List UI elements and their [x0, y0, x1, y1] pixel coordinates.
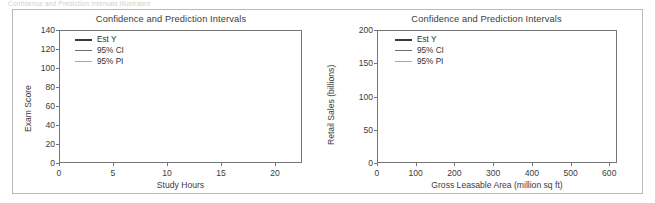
x-axis-label-right: Gross Leasable Area (million sq ft) — [377, 180, 617, 190]
legend-label-pi: 95% PI — [417, 56, 443, 67]
y-tick-label: 0 — [33, 158, 55, 168]
legend-line-icon-ci — [75, 50, 92, 51]
y-axis-label-right: Retail Sales (billions) — [326, 65, 336, 145]
chart-title-left: Confidence and Prediction Intervals — [13, 14, 329, 24]
x-tick-mark — [221, 163, 222, 166]
faint-caption: Confidence and Prediction Intervals Illu… — [8, 0, 428, 8]
x-tick-mark — [59, 163, 60, 166]
y-tick-mark — [56, 49, 59, 50]
y-tick-label: 20 — [33, 139, 55, 149]
y-tick-mark — [56, 30, 59, 31]
y-tick-label: 140 — [33, 25, 55, 35]
legend-item-est-y: Est Y — [75, 34, 124, 45]
legend-item-est-y: Est Y — [395, 34, 444, 45]
x-tick-label: 500 — [563, 168, 577, 178]
y-tick-mark — [374, 97, 377, 98]
x-tick-mark — [167, 163, 168, 166]
x-tick-mark — [532, 163, 533, 166]
y-tick-label: 120 — [33, 44, 55, 54]
x-tick-mark — [275, 163, 276, 166]
x-tick-mark — [416, 163, 417, 166]
legend-right: Est Y 95% CI 95% PI — [395, 34, 444, 67]
x-tick-label: 5 — [111, 168, 116, 178]
legend-label-ci: 95% CI — [417, 45, 444, 56]
x-tick-mark — [454, 163, 455, 166]
y-tick-label: 150 — [351, 58, 373, 68]
chart-title-right: Confidence and Prediction Intervals — [329, 14, 644, 24]
y-tick-mark — [374, 30, 377, 31]
legend-line-icon-est-y — [75, 39, 92, 41]
y-tick-label: 60 — [33, 101, 55, 111]
y-tick-mark — [56, 68, 59, 69]
x-tick-label: 400 — [525, 168, 539, 178]
legend-item-ci: 95% CI — [395, 45, 444, 56]
legend-item-ci: 95% CI — [75, 45, 124, 56]
legend-item-pi: 95% PI — [75, 56, 124, 67]
x-tick-mark — [493, 163, 494, 166]
y-tick-label: 100 — [351, 92, 373, 102]
legend-label-pi: 95% PI — [97, 56, 123, 67]
x-tick-mark — [377, 163, 378, 166]
figure-sheet: Confidence and Prediction Intervals Illu… — [0, 0, 655, 203]
y-tick-mark — [56, 144, 59, 145]
x-tick-label: 0 — [375, 168, 380, 178]
y-tick-label: 100 — [33, 63, 55, 73]
x-tick-mark — [609, 163, 610, 166]
chart-panel-retail-sales: Confidence and Prediction Intervals Gros… — [329, 10, 644, 195]
y-tick-label: 40 — [33, 120, 55, 130]
chart-panel-exam-score: Confidence and Prediction Intervals Exam… — [13, 10, 329, 195]
y-tick-mark — [56, 87, 59, 88]
y-tick-mark — [374, 130, 377, 131]
x-tick-label: 10 — [162, 168, 172, 178]
legend-line-icon-est-y — [395, 39, 412, 41]
y-tick-label: 200 — [351, 25, 373, 35]
legend-label-ci: 95% CI — [97, 45, 124, 56]
x-tick-label: 15 — [216, 168, 226, 178]
legend-left: Est Y 95% CI 95% PI — [75, 34, 124, 67]
legend-line-icon-ci — [395, 50, 412, 51]
legend-item-pi: 95% PI — [395, 56, 444, 67]
y-tick-mark — [56, 125, 59, 126]
legend-label-est-y: Est Y — [417, 34, 436, 45]
y-tick-mark — [374, 63, 377, 64]
x-tick-label: 20 — [270, 168, 280, 178]
x-tick-label: 100 — [409, 168, 423, 178]
legend-label-est-y: Est Y — [97, 34, 116, 45]
legend-line-icon-pi — [395, 61, 412, 62]
x-tick-label: 300 — [486, 168, 500, 178]
y-tick-label: 50 — [351, 125, 373, 135]
y-tick-label: 0 — [351, 158, 373, 168]
x-tick-label: 600 — [602, 168, 616, 178]
y-tick-label: 80 — [33, 82, 55, 92]
x-tick-label: 200 — [447, 168, 461, 178]
y-tick-mark — [56, 106, 59, 107]
y-axis-label-left: Exam Score — [23, 85, 33, 132]
legend-line-icon-pi — [75, 61, 92, 62]
x-axis-label-left: Study Hours — [59, 180, 302, 190]
x-tick-mark — [571, 163, 572, 166]
x-tick-label: 0 — [57, 168, 62, 178]
x-tick-mark — [113, 163, 114, 166]
